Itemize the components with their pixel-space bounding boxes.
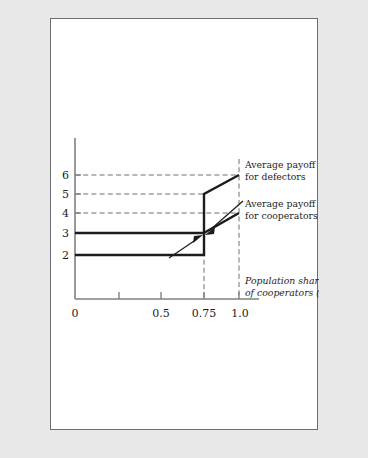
- x-axis-title: Population share of cooperators (c): [244, 275, 319, 298]
- legend-defectors: Average payoff for defectors: [244, 159, 317, 182]
- cooperator-arrow-head: [193, 235, 203, 243]
- xtick-label-0: 0: [72, 307, 79, 320]
- xtick-label-075: 0.75: [192, 307, 217, 320]
- defector-branch-arrow: [205, 201, 243, 235]
- ytick-label-2: 2: [62, 249, 69, 262]
- ytick-label-4: 4: [62, 207, 69, 220]
- y-axis-ticks: [75, 175, 81, 255]
- legend-cooperators: Average payoff for cooperators: [244, 198, 318, 221]
- ytick-label-3: 3: [62, 227, 69, 240]
- legend-cooperators-line1: Average payoff: [244, 198, 317, 209]
- xaxis-title-line2: of cooperators (c): [245, 287, 319, 298]
- xtick-label-05: 0.5: [152, 307, 170, 320]
- ytick-label-5: 5: [62, 188, 69, 201]
- legend-cooperators-line2: for cooperators: [245, 210, 318, 221]
- ytick-label-6: 6: [62, 169, 69, 182]
- payoff-chart-svg: 6 5 4 3 2 0 0.5 0.75 1.0 Average payoff …: [51, 19, 319, 431]
- defector-arrow-shaft: [210, 201, 243, 230]
- y-axis-tick-labels: 6 5 4 3 2: [62, 169, 69, 262]
- chart-plot-area: 6 5 4 3 2 0 0.5 0.75 1.0 Average payoff …: [51, 19, 319, 431]
- legend-defectors-line1: Average payoff: [244, 159, 317, 170]
- x-axis-ticks: [119, 292, 239, 299]
- x-axis-tick-labels: 0 0.5 0.75 1.0: [72, 307, 249, 320]
- legend-defectors-line2: for defectors: [245, 171, 306, 182]
- horizontal-reference-gridlines: [75, 175, 239, 213]
- xtick-label-10: 1.0: [231, 307, 249, 320]
- xaxis-title-line1: Population share: [244, 275, 319, 286]
- figure-panel: 6 5 4 3 2 0 0.5 0.75 1.0 Average payoff …: [50, 18, 318, 430]
- defectors-payoff-curve: [75, 175, 239, 233]
